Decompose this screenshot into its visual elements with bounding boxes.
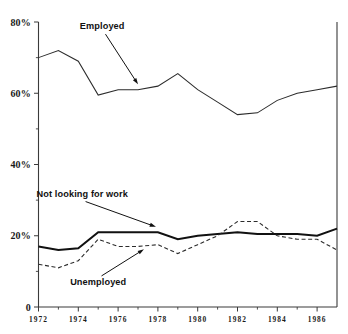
- series-line-employed: [39, 51, 338, 115]
- series-lines: [39, 51, 338, 268]
- annotation-arrowhead-employed: [133, 78, 138, 84]
- x-axis-tick-label: 1978: [149, 315, 168, 324]
- x-axis-tick-label: 1974: [69, 315, 88, 324]
- x-axis-tick-label: 1972: [29, 315, 48, 324]
- chart-container: 020%40%60%80% 19721974197619781980198219…: [0, 0, 348, 334]
- line-chart: 020%40%60%80% 19721974197619781980198219…: [0, 0, 348, 334]
- y-axis-tick-label: 40%: [10, 159, 31, 170]
- x-axis-tick-label: 1980: [188, 315, 207, 324]
- y-axis: 020%40%60%80%: [10, 17, 38, 313]
- annotation-label-not-looking-for-work: Not looking for work: [37, 189, 129, 199]
- annotation-arrow-unemployed: [102, 251, 142, 276]
- x-axis-tick-label: 1976: [109, 315, 128, 324]
- y-axis-tick-label: 0: [26, 302, 31, 313]
- annotation-arrowhead-not-looking-for-work: [149, 223, 156, 227]
- x-axis-tick-label: 1982: [228, 315, 247, 324]
- annotation-arrow-employed: [105, 34, 136, 81]
- x-axis-tick-label: 1984: [268, 315, 287, 324]
- annotation-label-employed: Employed: [80, 21, 125, 31]
- series-line-not-looking-for-work: [39, 229, 338, 250]
- y-axis-tick-label: 20%: [10, 230, 31, 241]
- y-axis-tick-label: 80%: [10, 17, 31, 28]
- y-axis-tick-label: 60%: [10, 88, 31, 99]
- annotation-label-unemployed: Unemployed: [70, 277, 126, 287]
- annotations: EmployedNot looking for workUnemployed: [37, 21, 156, 287]
- annotation-arrowhead-unemployed: [138, 249, 144, 254]
- x-axis-tick-label: 1986: [308, 315, 327, 324]
- annotation-arrow-not-looking-for-work: [86, 202, 153, 226]
